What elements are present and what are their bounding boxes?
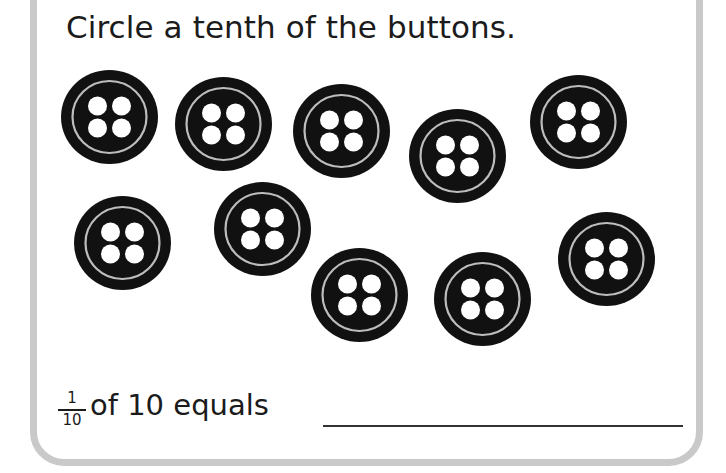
button-7[interactable]: [214, 182, 311, 276]
fraction-numerator: 1: [56, 391, 88, 406]
button-4[interactable]: [409, 109, 506, 203]
fraction-one-tenth: 1 10: [56, 388, 88, 432]
button-5[interactable]: [530, 75, 627, 169]
button-10[interactable]: [558, 212, 655, 306]
button-2[interactable]: [175, 77, 272, 171]
sewing-button-icon: [434, 252, 531, 346]
sewing-button-icon: [175, 77, 272, 171]
sewing-button-icon: [293, 84, 390, 178]
sewing-button-icon: [311, 248, 408, 342]
answer-blank-line[interactable]: [323, 425, 683, 427]
button-1[interactable]: [61, 70, 158, 164]
button-8[interactable]: [311, 248, 408, 342]
sewing-button-icon: [74, 196, 171, 290]
fraction-denominator: 10: [56, 413, 88, 428]
answer-prompt: of 10 equals: [90, 388, 269, 422]
sewing-button-icon: [409, 109, 506, 203]
answer-row: 1 10 of 10 equals: [56, 388, 696, 432]
sewing-button-icon: [530, 75, 627, 169]
sewing-button-icon: [558, 212, 655, 306]
button-9[interactable]: [434, 252, 531, 346]
button-6[interactable]: [74, 196, 171, 290]
sewing-button-icon: [214, 182, 311, 276]
button-3[interactable]: [293, 84, 390, 178]
sewing-button-icon: [61, 70, 158, 164]
